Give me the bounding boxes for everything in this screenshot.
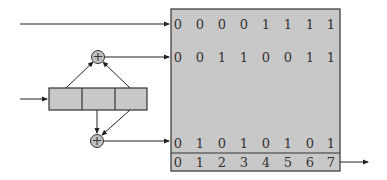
- cell: 1: [196, 136, 204, 151]
- cell: 0: [240, 17, 248, 32]
- cell: 0: [218, 136, 226, 151]
- cell: 1: [284, 17, 292, 32]
- xor-bottom-symbol: +: [92, 133, 103, 148]
- cell: 1: [327, 17, 335, 32]
- index-cell: 5: [284, 155, 292, 170]
- cell: 1: [284, 136, 292, 151]
- cell: 1: [306, 17, 314, 32]
- index-cell: 4: [262, 155, 270, 170]
- cell: 1: [306, 50, 314, 65]
- index-cell: 3: [240, 155, 248, 170]
- cell: 0: [218, 17, 226, 32]
- index-cell: 0: [174, 155, 182, 170]
- cell: 1: [327, 50, 335, 65]
- cell: 0: [262, 50, 270, 65]
- cell: 1: [240, 136, 248, 151]
- cell: 0: [306, 136, 314, 151]
- tap-arrow-cell3-bottom: [102, 110, 130, 135]
- tap-arrow-cell3-top: [103, 62, 130, 88]
- index-cell: 1: [196, 155, 204, 170]
- cell: 0: [174, 17, 182, 32]
- tap-arrow-cell1-top: [66, 62, 93, 88]
- cell: 0: [196, 17, 204, 32]
- index-cell: 7: [327, 155, 335, 170]
- cell: 1: [327, 136, 335, 151]
- cell: 0: [174, 50, 182, 65]
- lfsr-diagram: + + 0 0 0 0 1 1 1 1 0 0 1 1 0 0 1 1 0 1 …: [0, 0, 387, 180]
- cell: 1: [262, 17, 270, 32]
- index-cell: 6: [306, 155, 314, 170]
- cell: 0: [284, 50, 292, 65]
- shift-register: [49, 88, 147, 110]
- cell: 1: [218, 50, 226, 65]
- index-cell: 2: [218, 155, 226, 170]
- xor-top-symbol: +: [93, 49, 104, 64]
- cell: 0: [196, 50, 204, 65]
- cell: 1: [240, 50, 248, 65]
- cell: 0: [174, 136, 182, 151]
- cell: 0: [262, 136, 270, 151]
